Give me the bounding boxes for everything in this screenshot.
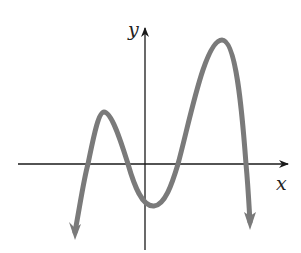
x-axis-label: x: [276, 172, 287, 194]
graph-svg: y x: [0, 0, 301, 253]
function-graph: y x: [0, 0, 301, 253]
function-curve: [75, 40, 250, 232]
y-axis-label: y: [127, 18, 139, 40]
